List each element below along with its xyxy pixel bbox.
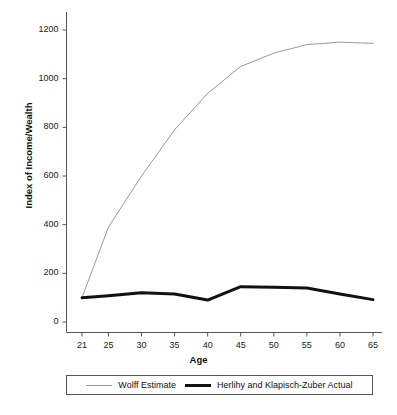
x-tick-label: 30 bbox=[130, 341, 154, 350]
x-tick-label: 35 bbox=[163, 341, 187, 350]
data-series-layer bbox=[82, 42, 373, 300]
y-axis-title: Index of Income/Wealth bbox=[23, 66, 34, 246]
x-tick-label: 60 bbox=[328, 341, 352, 350]
x-tick-label: 21 bbox=[70, 341, 94, 350]
y-tick-marks bbox=[63, 30, 67, 322]
series-line-herlihy-and-klapisch-zuber-actual bbox=[82, 287, 373, 300]
x-tick-marks bbox=[82, 333, 373, 337]
legend-label-wolff: Wolff Estimate bbox=[118, 380, 176, 390]
x-tick-label: 50 bbox=[262, 341, 286, 350]
x-tick-label: 25 bbox=[96, 341, 120, 350]
plot-canvas bbox=[0, 0, 397, 415]
x-tick-label: 40 bbox=[196, 341, 220, 350]
chart-figure: 020040060080010001200 212530354045505560… bbox=[0, 0, 397, 415]
y-tick-label: 1200 bbox=[25, 25, 59, 34]
series-line-wolff-estimate bbox=[82, 42, 373, 298]
legend-line-icon-wolff bbox=[86, 385, 112, 386]
x-axis-title: Age bbox=[0, 354, 397, 365]
legend-item-herlihy-actual: Herlihy and Klapisch-Zuber Actual bbox=[185, 380, 353, 390]
legend-item-wolff-estimate: Wolff Estimate bbox=[86, 380, 176, 390]
x-tick-label: 65 bbox=[361, 341, 385, 350]
chart-legend: Wolff Estimate Herlihy and Klapisch-Zube… bbox=[66, 375, 373, 395]
legend-label-herlihy: Herlihy and Klapisch-Zuber Actual bbox=[217, 380, 353, 390]
y-tick-label: 0 bbox=[25, 317, 59, 326]
x-tick-label: 45 bbox=[229, 341, 253, 350]
legend-line-icon-herlihy bbox=[185, 384, 211, 387]
y-tick-label: 200 bbox=[25, 268, 59, 277]
x-tick-label: 55 bbox=[295, 341, 319, 350]
